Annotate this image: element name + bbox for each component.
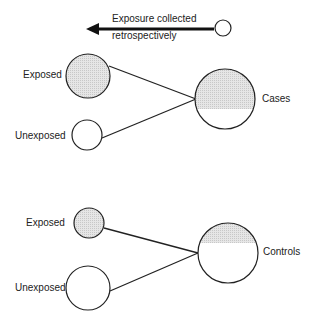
cases-unexposed-label: Unexposed: [15, 130, 66, 142]
controls-exposed-label: Exposed: [26, 217, 65, 229]
controls-unexposed-circle: [66, 266, 110, 310]
case-control-diagram: [0, 0, 310, 323]
cases-unexposed-circle: [72, 120, 102, 150]
arrow-label-line1: Exposure collected: [112, 13, 197, 25]
cases-exposed-circle: [66, 54, 110, 98]
controls-unexposed-label: Unexposed: [15, 282, 66, 294]
controls-exposed-circle: [74, 208, 104, 238]
arrow-label-line2: retrospectively: [112, 30, 176, 42]
origin-circle: [215, 20, 231, 36]
controls-group: [66, 208, 258, 310]
cases-exposed-label: Exposed: [23, 69, 62, 81]
cases-group: [66, 54, 255, 150]
cases-label: Cases: [262, 93, 290, 105]
controls-label: Controls: [263, 246, 300, 258]
